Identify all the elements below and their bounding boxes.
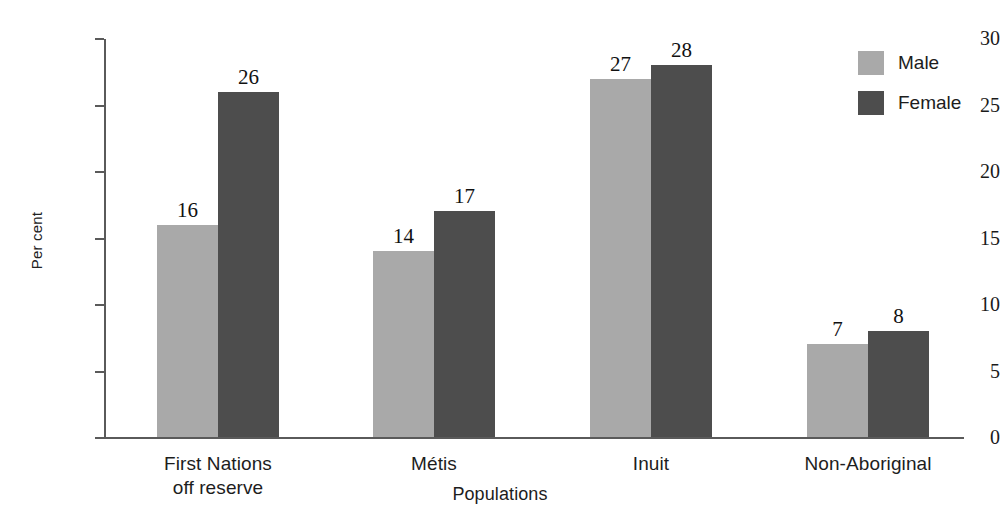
legend: Male Female — [858, 48, 961, 128]
bar-male-metis[interactable] — [373, 251, 434, 437]
y-tick-20 — [95, 171, 104, 173]
bar-female-metis[interactable] — [434, 211, 495, 437]
bar-female-first-nations[interactable] — [218, 92, 279, 437]
bar-female-non-aboriginal[interactable] — [868, 331, 929, 437]
legend-label-male: Male — [898, 52, 939, 74]
y-tick-label-10: 10 — [940, 294, 1000, 314]
y-tick-label-15: 15 — [940, 228, 1000, 248]
category-label-inuit-line1: Inuit — [561, 452, 741, 476]
category-label-first-nations: First Nations off reserve — [128, 452, 308, 501]
bar-male-non-aboriginal[interactable] — [807, 344, 868, 437]
legend-label-female: Female — [898, 92, 961, 114]
y-tick-10 — [95, 304, 104, 306]
bar-male-inuit[interactable] — [590, 79, 651, 437]
bar-value-male-metis: 14 — [373, 226, 434, 247]
y-tick-label-5: 5 — [940, 361, 1000, 381]
legend-item-male[interactable]: Male — [858, 48, 961, 78]
bar-value-male-non-aboriginal: 7 — [807, 319, 868, 340]
y-tick-0 — [95, 437, 104, 439]
y-tick-30 — [95, 38, 104, 40]
category-label-non-aboriginal-line1: Non-Aboriginal — [778, 452, 958, 476]
bar-value-female-first-nations: 26 — [218, 67, 279, 88]
bar-value-female-inuit: 28 — [651, 40, 712, 61]
category-label-first-nations-line2: off reserve — [128, 476, 308, 500]
y-tick-5 — [95, 371, 104, 373]
category-label-first-nations-line1: First Nations — [128, 452, 308, 476]
bar-female-inuit[interactable] — [651, 65, 712, 437]
category-label-metis-line1: Métis — [344, 452, 524, 476]
bar-value-male-inuit: 27 — [590, 54, 651, 75]
category-label-metis: Métis — [344, 452, 524, 476]
y-tick-15 — [95, 238, 104, 240]
y-tick-25 — [95, 105, 104, 107]
legend-swatch-female-icon — [858, 91, 884, 115]
bar-male-first-nations[interactable] — [157, 225, 218, 437]
legend-swatch-male-icon — [858, 51, 884, 75]
category-label-non-aboriginal: Non-Aboriginal — [778, 452, 958, 476]
legend-item-female[interactable]: Female — [858, 88, 961, 118]
x-axis-line — [104, 437, 964, 439]
y-axis-title: Per cent — [28, 196, 45, 286]
bar-chart: 30 25 20 15 10 5 0 Per cent Populations … — [0, 0, 1000, 526]
bar-value-female-non-aboriginal: 8 — [868, 306, 929, 327]
category-label-inuit: Inuit — [561, 452, 741, 476]
bar-value-male-first-nations: 16 — [157, 200, 218, 221]
y-tick-label-30: 30 — [940, 28, 1000, 48]
y-axis-line — [104, 39, 106, 439]
y-tick-label-20: 20 — [940, 161, 1000, 181]
bar-value-female-metis: 17 — [434, 186, 495, 207]
